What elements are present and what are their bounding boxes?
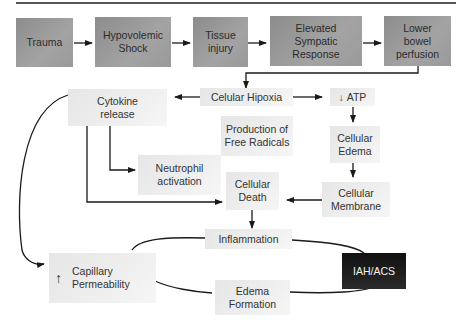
inflammation-box: Inflammation [205,229,292,249]
hypovolemic-shock-box: Hypovolemic Shock [95,17,171,67]
cellular-edema-label: Cellular Edema [337,132,373,158]
trauma-label: Trauma [27,36,63,49]
atp-label: ATP [347,91,367,104]
down-arrow-icon: ↓ [339,91,344,104]
cellular-membrane-label: Cellular Membrane [331,187,381,213]
cellular-edema-box: Cellular Edema [330,126,380,163]
free-radicals-label: Production of Free Radicals [225,123,290,149]
elevated-sympatic-response-label: Elevated Sympatic Response [292,22,339,61]
tissue-injury-label: Tissue injury [205,29,236,55]
edema-formation-box: Edema Formation [215,280,290,315]
capillary-permeability-label: Capillary Permeability [72,265,130,291]
lower-bowel-perfusion-box: Lower bowel perfusion [384,16,451,66]
cellular-hipoxia-label: Celular Hipoxia [211,91,282,104]
cellular-membrane-box: Cellular Membrane [322,182,390,217]
iah-acs-label: IAH/ACS [353,265,395,278]
cellular-death-label: Cellular Death [235,178,271,204]
neutrophil-activation-label: Neutrophil activation [156,162,204,188]
cytokine-release-label: Cytokine release [97,95,138,121]
free-radicals-box: Production of Free Radicals [221,116,293,156]
inflammation-label: Inflammation [218,233,278,246]
neutrophil-activation-box: Neutrophil activation [138,155,221,195]
cellular-hipoxia-box: Celular Hipoxia [200,88,293,106]
trauma-box: Trauma [16,18,73,67]
cellular-death-box: Cellular Death [226,172,279,210]
iah-acs-box: IAH/ACS [342,253,406,289]
cytokine-release-box: Cytokine release [68,89,167,126]
atp-box: ↓ ATP [330,88,375,106]
elevated-sympatic-response-box: Elevated Sympatic Response [270,16,362,66]
tissue-injury-box: Tissue injury [193,17,248,67]
hypovolemic-shock-label: Hypovolemic Shock [103,29,163,55]
up-arrow-icon: ↑ [55,272,62,285]
edema-formation-label: Edema Formation [229,285,276,311]
lower-bowel-perfusion-label: Lower bowel perfusion [396,22,439,61]
capillary-permeability-box: ↑ Capillary Permeability [49,253,156,303]
